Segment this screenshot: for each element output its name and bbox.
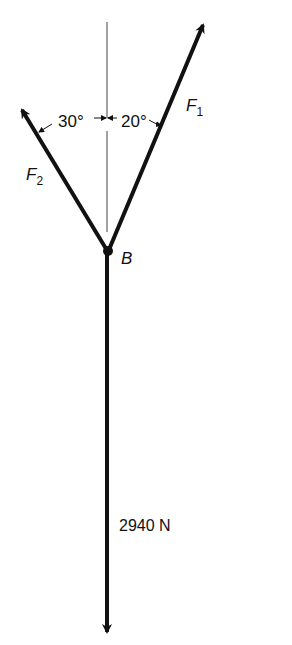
- force-f1-label: F1: [186, 96, 203, 119]
- force-f1-subscript: 1: [196, 105, 203, 119]
- force-f2-subscript: 2: [36, 174, 43, 188]
- angle-20-label: 20°: [121, 112, 147, 131]
- force-f1-arrow: [108, 25, 203, 252]
- angle-30-dimension-left: [39, 124, 52, 132]
- force-f2-label: F2: [26, 165, 43, 188]
- weight-label: 2940 N: [119, 517, 171, 534]
- point-b-label: B: [121, 249, 132, 268]
- joint-point-b: [103, 246, 113, 256]
- force-diagram: 30° 20° F1 F2 B 2940 N: [0, 0, 292, 645]
- angle-30-label: 30°: [58, 112, 84, 131]
- angle-20-dimension-right: [149, 120, 161, 125]
